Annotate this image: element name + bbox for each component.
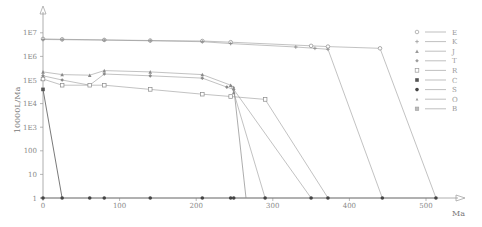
data-point-marker bbox=[434, 196, 438, 200]
series-R bbox=[41, 77, 328, 198]
series-S bbox=[41, 196, 438, 200]
data-point-marker bbox=[60, 83, 64, 87]
x-tick-label: 200 bbox=[190, 202, 203, 210]
data-point-marker bbox=[415, 49, 419, 53]
y-ticks: 1101001E31E41E51E61E7 bbox=[23, 29, 43, 202]
legend-label: O bbox=[452, 96, 458, 104]
y-tick-label: 1E4 bbox=[23, 100, 38, 108]
series-line bbox=[43, 39, 436, 198]
data-point-marker bbox=[229, 196, 233, 200]
y-tick-label: 1E3 bbox=[23, 124, 37, 132]
chart-canvas: 1101001E31E41E51E61E7 0100200300400500 1… bbox=[0, 0, 482, 227]
data-point-marker bbox=[201, 196, 205, 200]
legend-label: T bbox=[452, 57, 457, 65]
data-point-marker bbox=[88, 83, 92, 87]
legend-item: C bbox=[415, 77, 457, 85]
data-point-marker bbox=[415, 30, 419, 34]
y-tick-label: 10 bbox=[28, 171, 37, 179]
data-point-marker bbox=[41, 88, 45, 92]
data-point-marker bbox=[232, 196, 236, 200]
data-point-marker bbox=[309, 196, 313, 200]
x-tick-label: 0 bbox=[41, 202, 45, 210]
legend-label: S bbox=[452, 86, 457, 94]
legend-item: J bbox=[415, 48, 455, 56]
x-tick-label: 500 bbox=[419, 202, 432, 210]
data-point-marker bbox=[381, 196, 385, 200]
data-point-marker bbox=[148, 74, 152, 78]
data-point-marker bbox=[102, 196, 106, 200]
data-point-marker bbox=[60, 78, 64, 82]
x-tick-label: 400 bbox=[343, 202, 356, 210]
legend: EKJTRCSOB bbox=[415, 29, 458, 114]
legend-item: B bbox=[415, 105, 457, 113]
y-axis-title: 10000L/Ma bbox=[13, 87, 22, 134]
y-tick-label: 1E7 bbox=[23, 29, 37, 37]
series-O bbox=[229, 84, 246, 198]
legend-label: K bbox=[452, 38, 458, 46]
series-C bbox=[41, 88, 62, 198]
data-point-marker bbox=[313, 47, 317, 51]
y-tick-label: 100 bbox=[24, 147, 37, 155]
data-point-marker bbox=[41, 77, 45, 81]
x-ticks: 0100200300400500 bbox=[41, 198, 433, 210]
data-point-marker bbox=[60, 196, 64, 200]
legend-label: E bbox=[452, 29, 457, 37]
data-point-marker bbox=[229, 95, 233, 99]
data-point-marker bbox=[415, 69, 419, 73]
data-point-marker bbox=[102, 83, 106, 87]
series-E bbox=[41, 37, 436, 198]
data-point-marker bbox=[148, 196, 152, 200]
y-tick-label: 1E6 bbox=[23, 53, 38, 61]
data-point-marker bbox=[415, 88, 419, 92]
x-tick-label: 100 bbox=[113, 202, 126, 210]
x-axis-title: Ma bbox=[452, 209, 465, 218]
legend-item: R bbox=[415, 67, 458, 75]
series-line bbox=[43, 79, 328, 198]
data-point-marker bbox=[416, 98, 419, 101]
series-line bbox=[43, 74, 311, 198]
data-point-marker bbox=[294, 45, 298, 49]
data-point-marker bbox=[378, 47, 382, 51]
data-point-marker bbox=[41, 196, 45, 200]
legend-item: K bbox=[415, 38, 458, 46]
data-point-marker bbox=[225, 85, 229, 89]
y-tick-label: 1E5 bbox=[23, 77, 37, 85]
series-line bbox=[43, 89, 62, 198]
data-point-marker bbox=[415, 78, 419, 82]
legend-label: C bbox=[452, 77, 457, 85]
data-point-marker bbox=[148, 88, 152, 92]
legend-label: J bbox=[451, 48, 455, 56]
data-point-marker bbox=[201, 76, 205, 80]
legend-item: E bbox=[415, 29, 457, 37]
legend-item: O bbox=[416, 96, 458, 104]
data-point-marker bbox=[263, 196, 267, 200]
data-point-marker bbox=[415, 40, 419, 44]
series-T bbox=[41, 72, 311, 198]
y-tick-label: 1 bbox=[33, 195, 37, 203]
data-point-marker bbox=[88, 196, 92, 200]
series-line bbox=[231, 85, 246, 198]
data-point-marker bbox=[263, 98, 267, 102]
series-layer bbox=[41, 37, 438, 200]
data-point-marker bbox=[326, 196, 330, 200]
series-K bbox=[41, 38, 382, 198]
series-J bbox=[41, 69, 265, 198]
data-point-marker bbox=[415, 59, 419, 63]
legend-label: B bbox=[452, 105, 457, 113]
legend-item: T bbox=[415, 57, 457, 65]
data-point-marker bbox=[415, 107, 419, 111]
series-line bbox=[43, 40, 382, 199]
legend-label: R bbox=[452, 67, 458, 75]
data-point-marker bbox=[201, 92, 205, 96]
legend-item: S bbox=[415, 86, 457, 94]
x-tick-label: 300 bbox=[266, 202, 279, 210]
data-point-marker bbox=[309, 44, 313, 48]
